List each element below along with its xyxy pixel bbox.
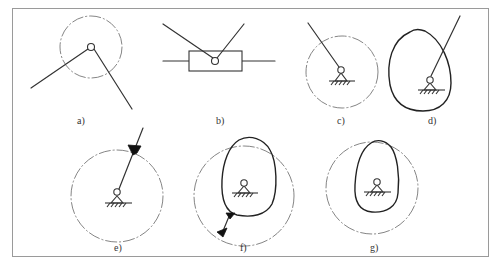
- revolute-pin-icon: [338, 67, 344, 73]
- panel-a: a): [31, 16, 132, 127]
- ground-support-icon: [105, 196, 132, 207]
- closed-curve: [355, 141, 399, 212]
- closed-curve: [222, 137, 276, 216]
- link-left: [163, 24, 213, 58]
- panel-c: c): [306, 23, 378, 127]
- panel-label-d: d): [428, 115, 436, 127]
- panel-b: b): [163, 24, 275, 127]
- panel-label-f: f): [240, 242, 247, 254]
- link: [119, 128, 143, 189]
- revolute-pin-icon: [114, 189, 120, 195]
- revolute-pin-icon: [241, 180, 247, 186]
- panel-label-e: e): [114, 242, 122, 254]
- link-right: [94, 49, 132, 109]
- dash-dot-circle: [326, 142, 418, 234]
- panel-f: f): [194, 137, 294, 254]
- panel-label-a: a): [77, 115, 85, 127]
- closed-curve: [389, 30, 451, 111]
- figure-frame: [13, 9, 489, 257]
- revolute-pin-icon: [427, 77, 433, 83]
- dash-dot-circle: [194, 146, 294, 246]
- link-left: [31, 49, 88, 88]
- revolute-pin-icon: [88, 44, 95, 51]
- weld-mark-icon: [217, 228, 227, 237]
- weld-mark-icon: [128, 145, 141, 155]
- panel-label-c: c): [337, 115, 345, 127]
- panel-label-b: b): [216, 115, 224, 127]
- link: [308, 23, 339, 67]
- ground-support-icon: [418, 83, 445, 94]
- link: [431, 16, 460, 76]
- weld-mark-icon: [226, 213, 235, 219]
- panel-d: d): [389, 16, 460, 127]
- ground-support-icon: [329, 73, 355, 85]
- panel-g: g): [326, 141, 418, 254]
- revolute-pin-icon: [212, 58, 219, 65]
- diagram-canvas: a) b) c) d): [0, 0, 499, 265]
- panel-label-g: g): [370, 242, 378, 254]
- ground-support-icon: [364, 185, 391, 196]
- revolute-pin-icon: [374, 179, 380, 185]
- panel-e: e): [71, 128, 163, 254]
- ground-support-icon: [232, 186, 258, 197]
